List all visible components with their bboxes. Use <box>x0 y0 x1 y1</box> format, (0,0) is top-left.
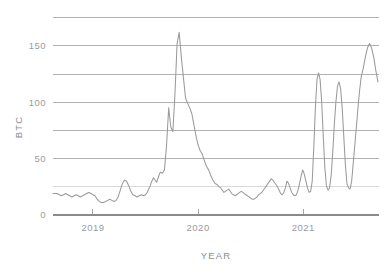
series-line <box>53 32 378 202</box>
x-tick-labels-group: 201920202021 <box>81 222 314 233</box>
gridlines-group <box>53 18 379 187</box>
chart-container: 050100150 201920202021 BTC YEAR <box>0 0 388 273</box>
x-axis-title: YEAR <box>201 250 231 261</box>
y-tick-label: 50 <box>34 153 46 164</box>
y-tick-label: 0 <box>40 209 46 220</box>
y-tick-label: 100 <box>29 97 46 108</box>
x-tick-label: 2021 <box>292 222 315 233</box>
y-tick-label: 150 <box>29 40 46 51</box>
x-tick-label: 2019 <box>81 222 104 233</box>
y-tick-labels-group: 050100150 <box>29 40 46 220</box>
y-axis-title: BTC <box>13 116 24 138</box>
series-group <box>53 32 378 202</box>
x-tick-label: 2020 <box>187 222 210 233</box>
line-chart: 050100150 201920202021 BTC YEAR <box>0 0 388 273</box>
x-axis-group <box>53 209 379 215</box>
